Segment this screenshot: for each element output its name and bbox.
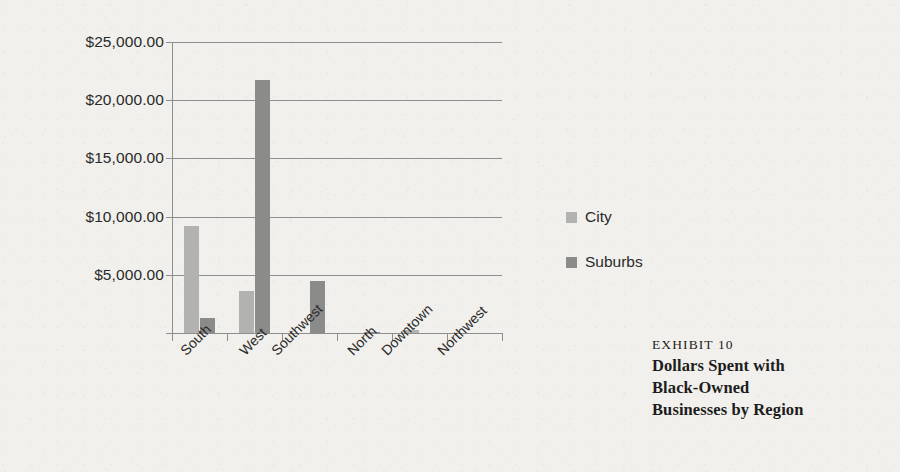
legend-label-suburbs: Suburbs: [585, 253, 643, 271]
caption-exhibit-number: EXHIBIT 10: [652, 337, 892, 353]
legend-label-city: City: [585, 208, 612, 226]
exhibit-caption: EXHIBIT 10 Dollars Spent with Black-Owne…: [652, 337, 892, 420]
x-category-label-downtown: Downtown: [378, 301, 436, 359]
caption-line-2: Black-Owned: [652, 377, 892, 399]
legend-item-city: City: [566, 207, 676, 227]
x-category-label-west: West: [236, 325, 270, 359]
caption-line-3: Businesses by Region: [652, 399, 892, 421]
caption-line-1: Dollars Spent with: [652, 355, 892, 377]
bar-chart: $5,000.00$10,000.00$15,000.00$20,000.00$…: [0, 0, 640, 472]
exhibit-figure: $5,000.00$10,000.00$15,000.00$20,000.00$…: [0, 0, 900, 472]
legend-item-suburbs: Suburbs: [566, 252, 676, 272]
legend-swatch-suburbs: [566, 257, 577, 268]
x-category-label-south: South: [177, 321, 214, 358]
x-category-label-north: North: [344, 323, 380, 359]
chart-legend: City Suburbs: [566, 207, 676, 297]
legend-swatch-city: [566, 212, 577, 223]
x-category-label-northwest: Northwest: [434, 302, 490, 358]
x-category-label-southwest: Southwest: [268, 301, 326, 359]
x-axis-category-labels: SouthWestSouthwestNorthDowntownNorthwest: [0, 0, 640, 472]
